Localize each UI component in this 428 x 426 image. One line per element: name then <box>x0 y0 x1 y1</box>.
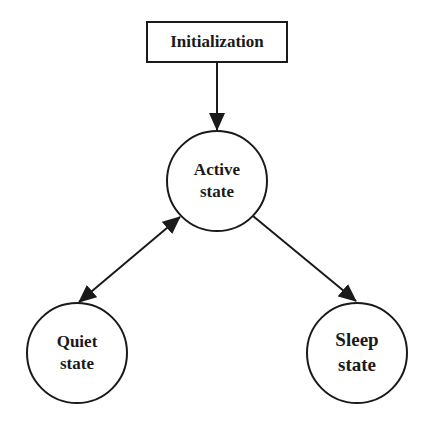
node-quiet-label-line1: Quiet <box>57 331 98 353</box>
node-sleep-label-line1: Sleep <box>335 328 378 353</box>
node-sleep-label-line2: state <box>338 353 376 378</box>
edge-active-quiet-bidirectional <box>79 217 180 302</box>
node-active-state: Active state <box>166 130 268 232</box>
edge-active-to-sleep <box>253 216 356 301</box>
node-quiet-label-line2: state <box>60 353 94 375</box>
node-quiet-state: Quiet state <box>26 302 128 404</box>
node-sleep-state: Sleep state <box>306 302 408 404</box>
node-initialization-label: Initialization <box>170 32 264 52</box>
node-active-label-line1: Active <box>194 159 240 181</box>
node-active-label-line2: state <box>200 181 234 203</box>
node-initialization: Initialization <box>146 21 288 63</box>
